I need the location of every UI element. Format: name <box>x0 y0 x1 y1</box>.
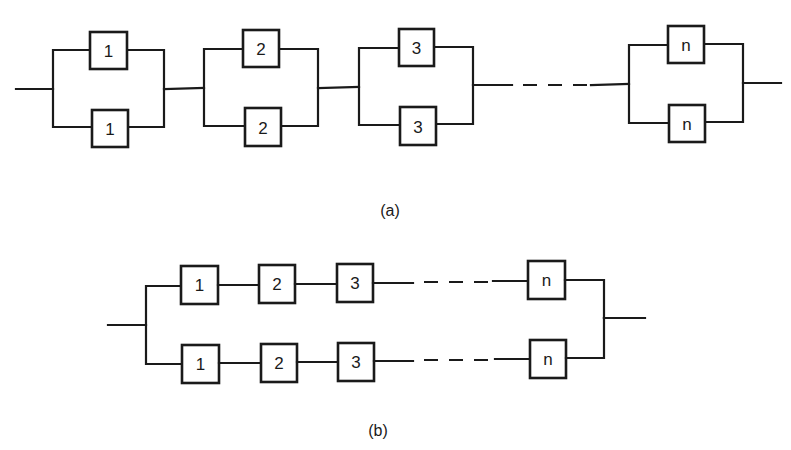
component-1-branch-top-label: 1 <box>195 276 204 295</box>
component-3-top-label: 3 <box>412 39 421 58</box>
link-2-3 <box>318 87 359 88</box>
component-2-bottom-label: 2 <box>258 119 267 138</box>
diagram-a: 1 1 2 2 3 3 n <box>16 26 781 147</box>
stage-1-parallel: 1 1 <box>53 32 164 147</box>
branch-bottom: 1 2 3 n <box>182 318 604 383</box>
component-1-branch-bottom-label: 1 <box>196 355 205 374</box>
component-1-top-label: 1 <box>104 42 113 61</box>
caption-b: (b) <box>368 422 388 440</box>
reliability-block-diagram: 1 1 2 2 3 3 n <box>0 0 791 450</box>
component-n-branch-top-label: n <box>542 271 551 290</box>
component-1-bottom-label: 1 <box>105 120 114 139</box>
component-2-branch-top-label: 2 <box>272 275 281 294</box>
component-3-bottom-label: 3 <box>413 118 422 137</box>
stage-n-parallel: n n <box>629 26 743 142</box>
branch-top: 1 2 3 n <box>181 261 604 318</box>
caption-a: (a) <box>380 202 400 220</box>
component-3-branch-bottom-label: 3 <box>351 353 360 372</box>
component-n-bottom-label: n <box>682 115 691 134</box>
component-n-branch-bottom-label: n <box>543 350 552 369</box>
component-n-top-label: n <box>681 36 690 55</box>
component-3-branch-top-label: 3 <box>350 274 359 293</box>
stage-2-parallel: 2 2 <box>204 30 318 146</box>
stage-3-parallel: 3 3 <box>359 29 473 145</box>
diagram-b: 1 2 3 n 1 2 3 n <box>108 261 645 383</box>
link-1-2 <box>164 88 204 89</box>
component-2-top-label: 2 <box>256 40 265 59</box>
component-2-branch-bottom-label: 2 <box>274 354 283 373</box>
